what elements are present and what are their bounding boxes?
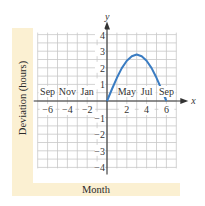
y-tick-label: −2 xyxy=(94,129,105,140)
month-label: Jan xyxy=(81,86,94,97)
y-axis-arrow-icon xyxy=(104,22,110,30)
x-axis-arrow-icon xyxy=(180,98,188,104)
x-tick-label: −4 xyxy=(62,104,73,115)
x-axis-symbol: x xyxy=(190,95,196,106)
y-tick-label: 4 xyxy=(100,30,105,41)
y-axis-symbol: y xyxy=(104,11,110,22)
chart-plot: xy −6−4−2246−4−3−2−11234 SepNovJanMayJul… xyxy=(0,0,205,206)
x-tick-label: −2 xyxy=(82,104,93,115)
x-tick-label: 2 xyxy=(124,104,129,115)
month-label: Jul xyxy=(141,86,153,97)
y-tick-label: 2 xyxy=(100,63,105,74)
x-tick-label: −6 xyxy=(42,104,53,115)
month-label: Sep xyxy=(159,86,174,97)
x-tick-label: 6 xyxy=(164,104,169,115)
y-tick-label: −3 xyxy=(94,146,105,157)
y-tick-label: −1 xyxy=(94,113,105,124)
y-tick-label: 3 xyxy=(100,46,105,57)
month-label: Nov xyxy=(59,86,76,97)
month-label: Sep xyxy=(40,86,55,97)
y-tick-label: 1 xyxy=(100,79,105,90)
y-tick-label: −4 xyxy=(94,162,105,173)
month-label: May xyxy=(118,86,136,97)
x-tick-label: 4 xyxy=(144,104,149,115)
